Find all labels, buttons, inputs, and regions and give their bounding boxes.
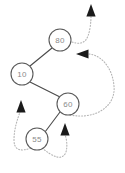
node-label-bottom: 55 [32, 135, 42, 144]
tree-node-root[interactable]: 80 [49, 29, 71, 51]
trace-arrowhead-up-middle [60, 123, 69, 136]
trace-arrowhead-up-exit-top [86, 4, 95, 17]
tree-diagram-canvas: 80 10 60 55 [0, 0, 125, 173]
node-label-middle: 60 [63, 100, 73, 109]
tree-diagram: 80 10 60 55 [0, 0, 125, 173]
trace-path-exit-top [72, 16, 91, 43]
tree-node-bottom[interactable]: 55 [26, 128, 48, 150]
tree-edge-10-60 [30, 82, 60, 97]
tree-edge-60-55 [45, 112, 60, 132]
tree-edge-80-10 [30, 48, 52, 66]
tree-node-left[interactable]: 10 [11, 63, 33, 85]
tree-node-middle[interactable]: 60 [57, 93, 79, 115]
trace-arrowhead-left-to-root [76, 49, 89, 58]
node-label-left: 10 [17, 70, 27, 79]
tree-edges [30, 48, 60, 132]
node-label-root: 80 [55, 36, 65, 45]
trace-arrowhead-up-left [16, 100, 25, 113]
